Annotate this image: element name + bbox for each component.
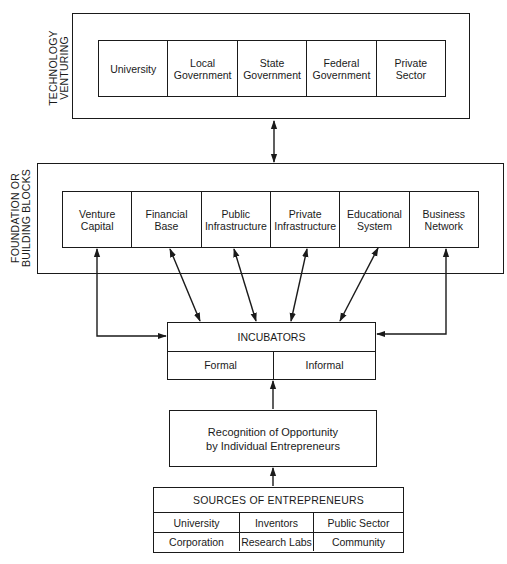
incubator-informal: Informal — [274, 352, 375, 379]
foundation-row: Venture Capital Financial Base Public In… — [62, 191, 479, 248]
technology-venturing-label: TECHNOLOGY VENTURING — [48, 28, 72, 108]
sources-row-2: Corporation Research Labs Community — [154, 532, 403, 551]
tv-state-government: State Government — [238, 41, 307, 96]
fb-public-infrastructure: Public Infrastructure — [202, 192, 271, 247]
fb-private-infrastructure: Private Infrastructure — [271, 192, 340, 247]
source-inventors: Inventors — [240, 512, 314, 532]
incubators-box: INCUBATORS Formal Informal — [167, 322, 376, 380]
incubators-title: INCUBATORS — [168, 323, 375, 352]
technology-venturing-row: University Local Government State Govern… — [98, 40, 446, 97]
fb-educational-system: Educational System — [340, 192, 409, 247]
fb-venture-capital: Venture Capital — [63, 192, 132, 247]
source-public-sector: Public Sector — [314, 512, 403, 532]
foundation-label: FOUNDATION OR BUILDING BLOCKS — [10, 168, 34, 268]
fb-business-network: Business Network — [410, 192, 478, 247]
source-research-labs: Research Labs — [240, 532, 314, 551]
tv-local-government: Local Government — [168, 41, 237, 96]
tv-university: University — [99, 41, 168, 96]
sources-box: SOURCES OF ENTREPRENEURS University Inve… — [153, 487, 404, 553]
source-corporation: Corporation — [154, 532, 240, 551]
tv-private-sector: Private Sector — [377, 41, 445, 96]
recognition-box: Recognition of Opportunity by Individual… — [169, 410, 377, 467]
tv-federal-government: Federal Government — [307, 41, 376, 96]
source-community: Community — [314, 532, 403, 551]
fb-financial-base: Financial Base — [132, 192, 201, 247]
source-university: University — [154, 512, 240, 532]
sources-row-1: University Inventors Public Sector — [154, 512, 403, 532]
sources-title: SOURCES OF ENTREPRENEURS — [154, 488, 403, 512]
incubators-types: Formal Informal — [168, 352, 375, 379]
incubator-formal: Formal — [168, 352, 274, 379]
